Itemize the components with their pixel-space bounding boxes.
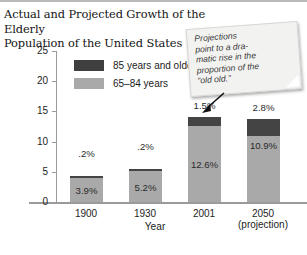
sticky-note-annotation: Projections point to a dra- matic rise i… xyxy=(186,21,303,97)
bar-group-1900[interactable]: .2% 3.9% xyxy=(70,176,103,202)
bar-segment-2001-65to84: 12.6% xyxy=(188,126,221,202)
bar-group-2001[interactable]: 1.5% 12.6% xyxy=(188,117,221,202)
y-tick-label-10: 10 xyxy=(22,136,48,147)
bar-segment-2001-85plus xyxy=(188,117,221,126)
bar-segment-2050-65to84: 10.9% xyxy=(247,136,280,202)
bar-segment-1900-65to84: 3.9% xyxy=(70,178,103,202)
bar-label-1930-65to84: 5.2% xyxy=(129,181,162,192)
bar-label-2050-65to84: 10.9% xyxy=(247,140,280,151)
bar-label-2001-85plus: 1.5% xyxy=(182,100,227,111)
x-label-2050: 2050 (projection) xyxy=(228,208,298,230)
bar-label-1930-85plus: .2% xyxy=(123,141,168,152)
x-axis-line xyxy=(29,202,307,204)
y-tick-0 xyxy=(52,202,56,203)
bar-label-2050-85plus: 2.8% xyxy=(241,102,286,113)
sticky-note-text: Projections point to a dra- matic rise i… xyxy=(194,26,295,86)
y-tick-label-25: 25 xyxy=(22,45,48,56)
y-tick-label-15: 15 xyxy=(22,105,48,116)
chart-title-line-1: Actual and Projected Growth of the Elder… xyxy=(4,7,205,36)
y-tick-label-5: 5 xyxy=(22,166,48,177)
top-rule xyxy=(0,0,307,2)
bar-segment-2050-85plus xyxy=(247,119,280,136)
x-label-1930-year: 1930 xyxy=(134,208,156,219)
bar-group-2050[interactable]: 2.8% 10.9% xyxy=(247,119,280,202)
x-axis-title: Year xyxy=(125,221,185,232)
chart-figure: Actual and Projected Growth of the Elder… xyxy=(0,0,307,255)
bar-group-1930[interactable]: .2% 5.2% xyxy=(129,169,162,202)
x-label-2050-year: 2050 xyxy=(252,208,274,219)
bar-segment-1930-65to84: 5.2% xyxy=(129,171,162,202)
bar-label-1900-65to84: 3.9% xyxy=(70,185,103,196)
bar-label-1900-85plus: .2% xyxy=(64,148,109,159)
y-tick-label-20: 20 xyxy=(22,75,48,86)
chart-title: Actual and Projected Growth of the Elder… xyxy=(4,7,214,51)
x-label-2001-year: 2001 xyxy=(193,208,215,219)
bar-label-2001-65to84: 12.6% xyxy=(188,159,221,170)
y-tick-label-0: 0 xyxy=(22,196,48,207)
x-label-2050-sub: (projection) xyxy=(228,219,298,230)
x-label-1900-year: 1900 xyxy=(75,208,97,219)
